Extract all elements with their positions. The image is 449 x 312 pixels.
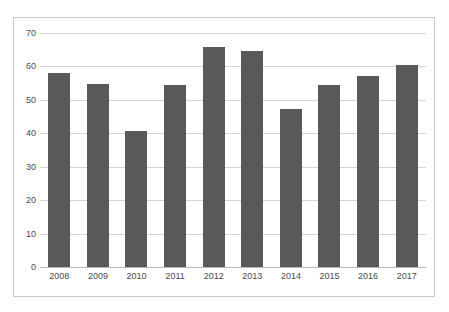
bar-2012[interactable] — [203, 47, 225, 267]
bar-2017[interactable] — [396, 65, 418, 267]
plot-area: 70 60 50 40 30 20 10 0 2008 — [14, 18, 434, 296]
bar-slot: 2012 — [194, 18, 233, 296]
bar-slot: 2015 — [310, 18, 349, 296]
x-axis-tick-label: 2014 — [281, 271, 301, 281]
bar-slot: 2010 — [117, 18, 156, 296]
bar-slot: 2016 — [349, 18, 388, 296]
x-axis-tick-label: 2017 — [397, 271, 417, 281]
y-axis-tick-label: 20 — [14, 196, 36, 205]
y-axis-tick-label: 30 — [14, 163, 36, 172]
bar-slot: 2011 — [156, 18, 195, 296]
bar-slot: 2013 — [233, 18, 272, 296]
bar-chart: 70 60 50 40 30 20 10 0 2008 — [0, 0, 449, 312]
bar-2009[interactable] — [87, 84, 109, 267]
bar-2013[interactable] — [241, 51, 263, 267]
bar-slot: 2009 — [79, 18, 118, 296]
x-axis-tick-label: 2008 — [49, 271, 69, 281]
x-axis-tick-label: 2016 — [358, 271, 378, 281]
x-axis-tick-label: 2010 — [126, 271, 146, 281]
y-axis-tick-label: 50 — [14, 96, 36, 105]
y-axis-tick-label: 40 — [14, 129, 36, 138]
y-axis-tick-label: 60 — [14, 62, 36, 71]
bar-2011[interactable] — [164, 85, 186, 267]
x-axis-tick-label: 2012 — [204, 271, 224, 281]
bar-2015[interactable] — [318, 85, 340, 267]
x-axis-tick-label: 2009 — [88, 271, 108, 281]
bar-group: 2008 2009 2010 2011 2012 — [40, 18, 426, 296]
x-axis-tick-label: 2015 — [319, 271, 339, 281]
y-axis-tick-label: 0 — [14, 263, 36, 272]
chart-plot-frame: 70 60 50 40 30 20 10 0 2008 — [13, 17, 435, 297]
x-axis-tick-label: 2011 — [165, 271, 184, 281]
y-axis-tick-label: 10 — [14, 230, 36, 239]
bar-slot: 2014 — [272, 18, 311, 296]
bar-slot: 2017 — [387, 18, 426, 296]
bar-2014[interactable] — [280, 109, 302, 267]
bar-2008[interactable] — [48, 73, 70, 267]
bar-slot: 2008 — [40, 18, 79, 296]
x-axis-tick-label: 2013 — [242, 271, 262, 281]
y-axis-tick-label: 70 — [14, 29, 36, 38]
bar-2016[interactable] — [357, 76, 379, 267]
bar-2010[interactable] — [125, 131, 147, 267]
